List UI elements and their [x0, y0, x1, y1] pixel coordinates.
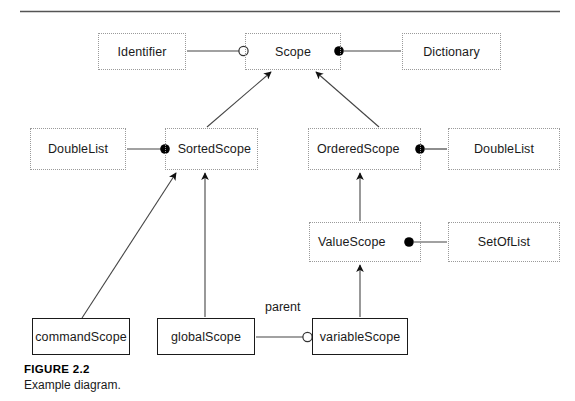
- figure-caption-text: Example diagram.: [24, 378, 324, 393]
- node-sortedscope[interactable]: SortedScope: [165, 128, 258, 170]
- generalization-sortedscope-scope: [207, 72, 271, 127]
- node-variablescope-label: variableScope: [320, 330, 401, 344]
- node-doublelist-left[interactable]: DoubleList: [30, 128, 126, 170]
- node-dictionary[interactable]: Dictionary: [402, 33, 501, 70]
- generalization-commandscope-sortedscope: [82, 173, 176, 318]
- node-doublelist-left-label: DoubleList: [48, 142, 108, 156]
- node-setoflist-label: SetOfList: [478, 235, 530, 249]
- node-globalscope-label: globalScope: [171, 330, 241, 344]
- node-dictionary-label: Dictionary: [423, 45, 480, 59]
- node-identifier-label: Identifier: [118, 45, 167, 59]
- node-commandscope-label: commandScope: [35, 330, 127, 344]
- node-orderedscope-label: OrderedScope: [317, 142, 400, 156]
- node-setoflist[interactable]: SetOfList: [448, 222, 560, 262]
- generalization-orderedscope-scope: [316, 72, 379, 127]
- figure-caption-title: FIGURE 2.2: [24, 362, 324, 377]
- node-variablescope[interactable]: variableScope: [312, 318, 408, 355]
- node-identifier[interactable]: Identifier: [98, 33, 186, 70]
- figure-page: Scope --> Scope --> OrderedScope --> Val…: [0, 0, 575, 401]
- node-valuescope-label: ValueScope: [318, 235, 386, 249]
- node-doublelist-right-label: DoubleList: [474, 142, 534, 156]
- node-valuescope[interactable]: ValueScope: [309, 222, 421, 262]
- figure-caption: FIGURE 2.2 Example diagram.: [24, 362, 324, 393]
- node-scope-label: Scope: [275, 45, 311, 59]
- node-commandscope[interactable]: commandScope: [32, 318, 130, 355]
- node-globalscope[interactable]: globalScope: [157, 318, 255, 355]
- edge-label-parent: parent: [265, 300, 300, 314]
- node-sortedscope-label: SortedScope: [178, 142, 251, 156]
- node-doublelist-right[interactable]: DoubleList: [448, 128, 560, 170]
- hollow-circle-marker-globalscope-variablescope: [303, 332, 312, 341]
- node-scope[interactable]: Scope: [245, 33, 341, 70]
- node-orderedscope[interactable]: OrderedScope: [308, 128, 421, 170]
